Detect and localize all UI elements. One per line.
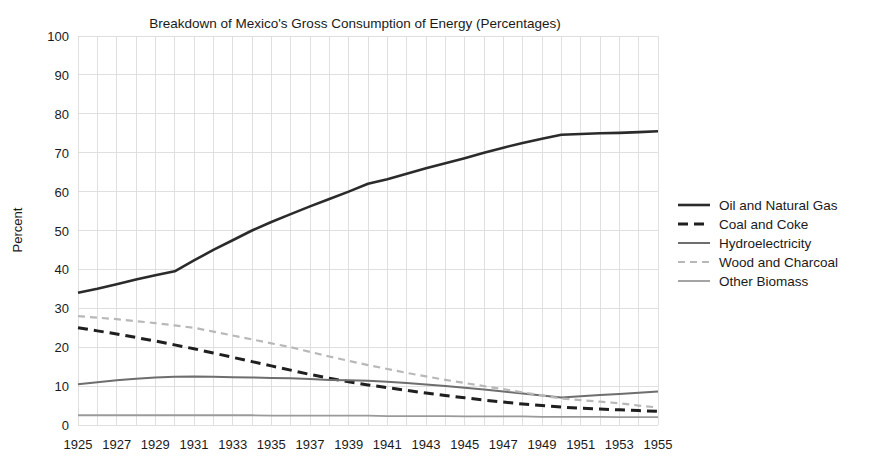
grid-lines: [78, 36, 658, 425]
y-axis-tick-label: 90: [55, 68, 69, 83]
x-axis-tick-label: 1949: [528, 437, 557, 452]
chart-container: 0102030405060708090100 19251927192919311…: [0, 0, 875, 474]
x-axis-tick-label: 1927: [102, 437, 131, 452]
x-axis-tick-label: 1945: [450, 437, 479, 452]
y-axis-tick-label: 80: [55, 107, 69, 122]
chart-title: Breakdown of Mexico's Gross Consumption …: [149, 16, 561, 31]
x-axis-tick-label: 1951: [566, 437, 595, 452]
x-axis-tick-label: 1955: [644, 437, 673, 452]
line-chart: 0102030405060708090100 19251927192919311…: [0, 0, 875, 474]
y-axis-ticks: 0102030405060708090100: [47, 29, 69, 433]
x-axis-tick-label: 1925: [64, 437, 93, 452]
y-axis-tick-label: 70: [55, 146, 69, 161]
x-axis-tick-label: 1937: [296, 437, 325, 452]
x-axis-tick-label: 1931: [180, 437, 209, 452]
legend-label-0[interactable]: Oil and Natural Gas: [719, 198, 838, 213]
x-axis-ticks: 1925192719291931193319351937193919411943…: [64, 437, 673, 452]
x-axis-tick-label: 1929: [141, 437, 170, 452]
x-axis-tick-label: 1933: [218, 437, 247, 452]
y-axis-tick-label: 20: [55, 340, 69, 355]
y-axis-label: Percent: [10, 207, 25, 252]
y-axis-tick-label: 100: [47, 29, 69, 44]
legend-label-3[interactable]: Wood and Charcoal: [719, 255, 838, 270]
x-axis-tick-label: 1953: [605, 437, 634, 452]
x-axis-tick-label: 1939: [334, 437, 363, 452]
y-axis-tick-label: 60: [55, 185, 69, 200]
x-axis-tick-label: 1935: [257, 437, 286, 452]
y-axis-tick-label: 50: [55, 224, 69, 239]
y-axis-tick-label: 10: [55, 379, 69, 394]
y-axis-tick-label: 0: [62, 418, 69, 433]
legend-label-4[interactable]: Other Biomass: [719, 274, 809, 289]
x-axis-tick-label: 1943: [412, 437, 441, 452]
x-axis-tick-label: 1947: [489, 437, 518, 452]
x-axis-tick-label: 1941: [373, 437, 402, 452]
chart-legend: Oil and Natural GasCoal and CokeHydroele…: [678, 198, 838, 289]
legend-label-1[interactable]: Coal and Coke: [719, 217, 808, 232]
y-axis-tick-label: 40: [55, 262, 69, 277]
y-axis-tick-label: 30: [55, 301, 69, 316]
legend-label-2[interactable]: Hydroelectricity: [719, 236, 812, 251]
